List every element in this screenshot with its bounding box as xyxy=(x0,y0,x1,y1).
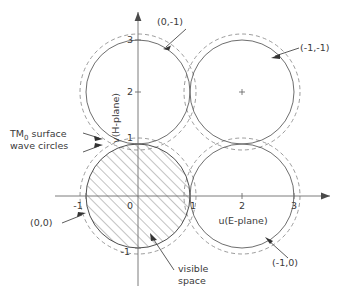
x-tick-label-2: 2 xyxy=(239,200,245,211)
figure-container: -1 1 2 3 0 -1 1 2 3 u(E-plane) v(H-plane… xyxy=(0,0,344,295)
y-tick-label-minus1: -1 xyxy=(121,246,130,257)
y-tick-label-3: 3 xyxy=(127,34,133,45)
label-0-minus1: (0,-1) xyxy=(157,16,183,27)
annotation-bottom-left-circle: (0,0) xyxy=(30,212,86,228)
x-tick-label-3: 3 xyxy=(291,200,297,211)
y-axis-arrowhead xyxy=(135,12,142,21)
axes-group xyxy=(55,12,330,286)
x-tick-label-1: 1 xyxy=(190,200,196,211)
x-tick-label-minus1: -1 xyxy=(73,200,82,211)
visible-space-label-line2: space xyxy=(178,275,206,286)
origin-label: 0 xyxy=(127,200,133,211)
label-minus1-minus1: (-1,-1) xyxy=(300,42,329,53)
y-tick-label-1: 1 xyxy=(127,132,133,143)
y-tick-label-2: 2 xyxy=(127,86,133,97)
annotation-bottom-right-circle: (-1,0) xyxy=(265,237,298,268)
grating-lobe-diagram: -1 1 2 3 0 -1 1 2 3 u(E-plane) v(H-plane… xyxy=(0,0,344,295)
label-minus1-0: (-1,0) xyxy=(272,257,298,268)
x-axis-arrowhead xyxy=(321,193,330,200)
annotation-top-right-circle: (-1,-1) xyxy=(271,42,329,59)
label-0-0: (0,0) xyxy=(30,217,53,228)
visible-space-label-line1: visible xyxy=(178,263,209,274)
y-axis-label: v(H-plane) xyxy=(110,93,121,143)
annotation-surface-wave-circles: TM0 surface wave circles xyxy=(9,128,103,152)
x-axis-label: u(E-plane) xyxy=(218,215,267,226)
circle-center-marker xyxy=(239,89,245,95)
surface-wave-label-line2: wave circles xyxy=(10,140,68,151)
